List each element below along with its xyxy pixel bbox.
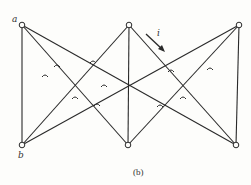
diagram: a b i (b) — [0, 0, 251, 185]
crossover-hop — [101, 85, 107, 87]
node-top-middle — [126, 22, 132, 28]
crossover-hop — [42, 75, 48, 77]
node-bottom-right — [233, 142, 239, 148]
crossover-hop — [157, 105, 163, 107]
network-graph — [0, 0, 251, 185]
node-label-a: a — [12, 14, 17, 24]
node-bottom-middle — [125, 142, 131, 148]
node-b — [19, 142, 25, 148]
node-top-right — [236, 22, 242, 28]
crossover-hop — [207, 68, 213, 70]
edge-top-right-bottom-right — [236, 25, 239, 145]
crossover-hop — [180, 97, 186, 99]
figure-caption: (b) — [133, 167, 144, 177]
crossover-hop — [72, 97, 78, 99]
node-a — [19, 22, 25, 28]
current-label-i: i — [157, 28, 160, 38]
edge-top-middle-bottom-middle — [128, 25, 129, 145]
node-label-b: b — [18, 150, 24, 160]
